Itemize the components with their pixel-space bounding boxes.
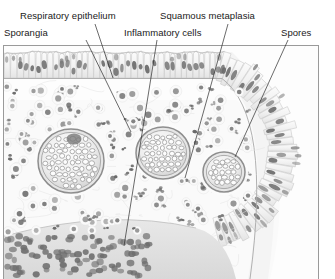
inflammatory-cell	[90, 243, 97, 249]
spore	[47, 166, 52, 170]
epithelial-cell	[204, 52, 210, 78]
figure-canvas: Sporangia Respiratory epithelium Inflamm…	[0, 0, 335, 279]
lymphocyte	[244, 191, 253, 200]
lymphocyte	[69, 224, 78, 233]
lymphocyte	[10, 216, 18, 224]
lymphocyte	[40, 199, 49, 208]
spore	[235, 164, 240, 169]
lymphocyte	[74, 107, 83, 116]
histology-drawing	[0, 0, 335, 279]
inflammatory-cell	[128, 251, 135, 257]
inflammatory-cell	[108, 235, 115, 240]
inflammatory-cell	[100, 254, 107, 259]
spore	[235, 175, 240, 179]
spore	[224, 159, 230, 163]
spore	[157, 162, 161, 167]
spore	[169, 139, 174, 144]
lymphocyte	[170, 85, 182, 97]
spore	[79, 143, 85, 147]
inflammatory-cell	[51, 235, 57, 240]
inflammatory-cell	[96, 238, 102, 244]
spore	[231, 170, 236, 174]
epithelial-nucleus	[19, 57, 22, 63]
spore	[63, 160, 68, 165]
spore	[80, 166, 84, 171]
label-sporangia: Sporangia	[4, 27, 48, 38]
spore	[173, 167, 178, 172]
epithelial-nucleus	[60, 58, 64, 63]
lymphocyte	[152, 200, 162, 210]
spore	[92, 155, 97, 159]
spore	[74, 155, 78, 159]
lymphocyte	[94, 103, 103, 112]
spore	[79, 155, 84, 159]
epithelial-nucleus	[12, 55, 15, 61]
lymphocyte	[29, 87, 38, 96]
inflammatory-cell	[59, 257, 65, 263]
spore	[213, 170, 218, 175]
spore	[231, 160, 236, 164]
inflammatory-cell	[33, 271, 40, 277]
lymphocyte	[129, 117, 138, 126]
spore	[154, 157, 158, 161]
lymphocyte	[212, 135, 223, 146]
spore	[76, 149, 82, 154]
spore	[175, 162, 181, 167]
label-inflammatory-cells-text: Inflammatory cells	[124, 27, 201, 38]
inflammatory-cell	[9, 247, 17, 252]
inflammatory-cell	[14, 241, 22, 247]
inflammatory-cell	[117, 269, 124, 274]
spore	[57, 149, 63, 153]
spore	[54, 166, 58, 171]
inflammatory-cell	[144, 242, 150, 248]
spore	[56, 136, 61, 141]
lymphocyte	[228, 125, 236, 133]
inflammatory-cell	[145, 265, 152, 272]
inflammatory-cell	[116, 262, 121, 267]
spore	[220, 170, 225, 175]
inflammatory-cell	[71, 266, 79, 272]
spore	[231, 180, 237, 185]
spore	[157, 151, 161, 155]
inflammatory-cell	[77, 260, 83, 266]
spore	[160, 146, 164, 151]
lymphocyte	[113, 216, 122, 225]
spore	[175, 152, 180, 156]
spore	[63, 183, 69, 188]
spore	[142, 145, 147, 149]
lymphocyte	[243, 143, 252, 152]
spore	[49, 148, 55, 153]
lymphocyte	[27, 110, 36, 119]
spore	[66, 167, 70, 172]
spore	[76, 184, 82, 189]
inflammatory-cell	[135, 272, 140, 279]
lymphocyte	[178, 177, 186, 185]
lymphocyte	[10, 163, 22, 175]
spore	[67, 178, 72, 182]
lymphocyte	[215, 95, 226, 106]
lymphocyte	[126, 88, 138, 100]
inflammatory-cell	[127, 260, 135, 267]
inflammatory-cell	[90, 234, 95, 239]
lymphocyte	[169, 111, 181, 123]
inflammatory-cell	[91, 261, 99, 268]
epithelial-nucleus	[65, 55, 68, 61]
spore	[225, 179, 230, 184]
spore	[60, 166, 65, 170]
spore	[83, 136, 88, 141]
spore	[154, 135, 160, 140]
spore	[176, 140, 182, 145]
inflammatory-cell	[74, 251, 82, 258]
spore	[70, 172, 76, 177]
spore	[83, 159, 89, 164]
spore	[163, 140, 167, 145]
lymphocyte	[182, 106, 192, 116]
spore	[55, 160, 61, 164]
spore	[46, 156, 52, 160]
spore	[221, 175, 227, 179]
sporangium	[200, 149, 249, 196]
spore	[52, 177, 57, 182]
epithelial-cell	[94, 53, 100, 78]
inflammatory-cell	[33, 254, 41, 259]
spore	[179, 146, 184, 150]
